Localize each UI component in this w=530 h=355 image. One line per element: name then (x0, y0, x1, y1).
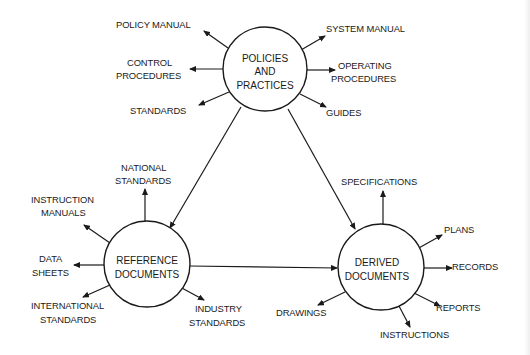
label-policy-manual: POLICY MANUAL (116, 19, 191, 30)
label-national-standards-line1: NATIONAL (121, 162, 166, 173)
label-instruction-manuals-line1: INSTRUCTION (31, 194, 94, 205)
node-label-line: AND (254, 66, 275, 77)
arrow-drawings (318, 292, 345, 305)
node-policies-and-practices: POLICIES AND PRACTICES (223, 27, 307, 111)
edge-reference-to-derived (189, 266, 337, 268)
label-specifications: SPECIFICATIONS (341, 176, 417, 187)
label-data-sheets-line1: DATA (39, 253, 63, 264)
label-reports: REPORTS (436, 302, 480, 313)
arrow-instructions (399, 306, 410, 327)
node-label-line: DOCUMENTS (115, 269, 180, 280)
label-instructions: INSTRUCTIONS (380, 329, 449, 340)
edge-policies-to-derived (288, 109, 355, 229)
label-industry-standards-line1: INDUSTRY (195, 303, 243, 314)
node-label-line: REFERENCE (116, 255, 178, 266)
label-plans: PLANS (444, 224, 474, 235)
label-international-standards-line1: INTERNATIONAL (31, 300, 104, 311)
label-operating-procedures-line1: OPERATING (338, 60, 392, 71)
label-international-standards-line2: STANDARDS (40, 314, 96, 325)
node-label-line: DERIVED (355, 257, 399, 268)
document-flow-diagram: POLICIES AND PRACTICES REFERENCE DOCUMEN… (0, 0, 530, 355)
page-edge-shadow (524, 0, 530, 355)
edge-policies-to-reference (170, 107, 241, 228)
label-control-procedures-line1: CONTROL (127, 57, 172, 68)
label-system-manual: SYSTEM MANUAL (326, 23, 405, 34)
node-derived-documents: DERIVED DOCUMENTS (338, 224, 424, 310)
label-national-standards-line2: STANDARDS (115, 175, 171, 186)
label-control-procedures-line2: PROCEDURES (116, 70, 181, 81)
arrow-system-manual (301, 36, 325, 50)
node-label-line: DOCUMENTS (345, 271, 410, 282)
node-reference-documents: REFERENCE DOCUMENTS (104, 221, 190, 307)
arrow-guides (300, 94, 326, 107)
label-instruction-manuals-line2: MANUALS (41, 207, 86, 218)
arrow-policy-manual (204, 31, 228, 48)
label-drawings: DRAWINGS (276, 307, 326, 318)
label-guides: GUIDES (326, 107, 361, 118)
label-standards: STANDARDS (130, 105, 186, 116)
node-label-line: PRACTICES (236, 80, 294, 91)
label-operating-procedures-line2: PROCEDURES (331, 73, 396, 84)
arrow-plans (417, 235, 442, 249)
label-industry-standards-line2: STANDARDS (189, 317, 245, 328)
arrow-international-standards (83, 285, 110, 297)
label-data-sheets-line2: SHEETS (32, 267, 69, 278)
node-label-line: POLICIES (242, 53, 288, 64)
arrow-industry-standards (180, 287, 204, 300)
arrow-standards (199, 92, 229, 105)
arrow-instruction-manuals (84, 225, 110, 243)
label-records: RECORDS (452, 261, 498, 272)
